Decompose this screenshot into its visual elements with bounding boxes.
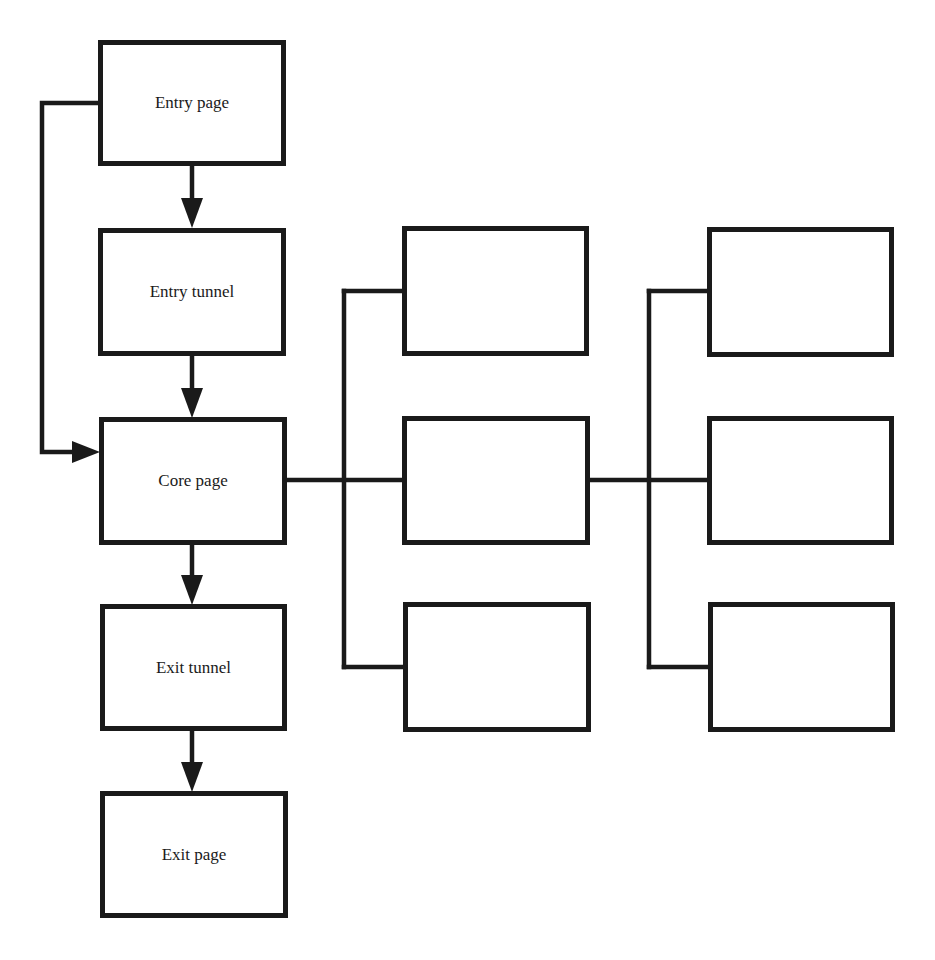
- node-branch2-bottom: [708, 602, 895, 732]
- arrowhead-right-icon: [72, 441, 100, 463]
- site-structure-diagram: Entry page Entry tunnel Core page Exit t…: [0, 0, 935, 960]
- node-branch1-bottom: [403, 602, 591, 732]
- node-entry-page: Entry page: [98, 40, 286, 166]
- arrowhead-down-icon: [181, 762, 203, 792]
- node-label: Exit page: [162, 845, 227, 865]
- node-entry-tunnel: Entry tunnel: [98, 228, 286, 356]
- node-exit-page: Exit page: [100, 791, 288, 918]
- bypass-entry-page-to-core-page: [42, 103, 98, 452]
- node-label: Entry tunnel: [150, 282, 235, 302]
- node-core-page: Core page: [99, 417, 287, 545]
- node-branch2-top: [707, 227, 894, 357]
- node-branch1-top: [402, 226, 589, 356]
- arrowhead-down-icon: [181, 575, 203, 605]
- node-branch2-middle: [707, 416, 894, 545]
- arrowhead-down-icon: [181, 198, 203, 228]
- node-label: Entry page: [155, 93, 229, 113]
- node-label: Exit tunnel: [156, 658, 231, 678]
- node-exit-tunnel: Exit tunnel: [100, 604, 287, 731]
- arrowhead-down-icon: [181, 388, 203, 418]
- node-label: Core page: [158, 471, 227, 491]
- node-branch1-middle: [402, 416, 590, 545]
